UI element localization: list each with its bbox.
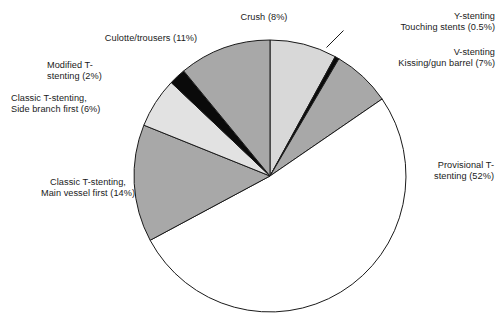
leader-lines-group — [327, 31, 344, 48]
pie-slices-group — [134, 40, 406, 312]
pie-chart-svg — [0, 0, 496, 329]
pie-chart-figure: Crush (8%) Y-stenting Touching stents (0… — [0, 0, 496, 329]
leader-line-y-stenting — [327, 31, 344, 48]
